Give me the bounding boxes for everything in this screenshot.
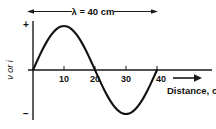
x-axis-title: Distance, cm: [167, 85, 216, 96]
negative-sign-label: −: [23, 108, 29, 119]
y-axis-title: ν or i: [5, 59, 15, 80]
positive-sign-label: +: [23, 19, 29, 30]
wavelength-label: λ = 40 cm: [71, 6, 114, 17]
tick-label-10: 10: [59, 74, 69, 84]
tick-label-30: 30: [121, 74, 131, 84]
wave-figure: λ = 40 cm + − ν or i 10 20 30 40: [0, 0, 216, 129]
wave-diagram-svg: λ = 40 cm + − ν or i 10 20 30 40: [0, 0, 216, 129]
tick-label-40: 40: [156, 74, 166, 84]
